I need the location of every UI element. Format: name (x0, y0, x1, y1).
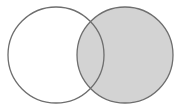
venn-diagram (0, 0, 181, 110)
right-set-circle (77, 7, 173, 103)
